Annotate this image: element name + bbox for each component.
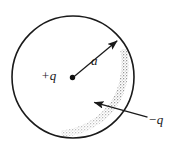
physics-figure: +q a −q [0, 0, 170, 151]
label-center-charge: +q [41, 69, 56, 82]
figure-canvas [0, 0, 170, 151]
label-patch-charge: −q [148, 113, 163, 126]
label-radius: a [91, 54, 98, 67]
